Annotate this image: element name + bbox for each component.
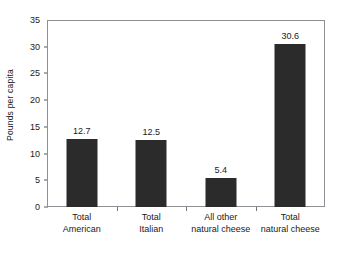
y-axis-tick-label: 10 <box>30 149 40 158</box>
x-axis-category-label-line: Total <box>142 212 161 222</box>
bar-group[interactable]: 12.7 <box>47 20 117 207</box>
x-axis-labels: TotalAmericanTotalItalianAll othernatura… <box>47 212 325 252</box>
bar-value-label: 12.5 <box>142 128 160 137</box>
bars-layer: 12.712.55.430.6 <box>47 20 325 207</box>
y-axis-title-text: Pounds per capita <box>5 69 15 141</box>
y-axis-tick-label: 25 <box>30 69 40 78</box>
bar-value-label: 5.4 <box>214 166 227 175</box>
x-axis-category-label-line: Total <box>281 212 300 222</box>
y-axis-tick-label: 15 <box>30 122 40 131</box>
y-axis-tick-label: 20 <box>30 96 40 105</box>
x-axis-category-label: TotalItalian <box>139 212 163 235</box>
bar-value-label: 12.7 <box>73 127 91 136</box>
x-axis-tick-mark <box>186 207 187 211</box>
bar-group[interactable]: 12.5 <box>117 20 187 207</box>
y-axis-tick-label: 0 <box>35 203 40 212</box>
bar-group[interactable]: 30.6 <box>256 20 326 207</box>
bar-group[interactable]: 5.4 <box>186 20 256 207</box>
x-axis-category-label-line: natural cheese <box>191 224 250 236</box>
bar[interactable] <box>275 44 306 207</box>
y-axis-title: Pounds per capita <box>0 0 20 210</box>
y-axis-tick-label: 5 <box>35 176 40 185</box>
bar-chart-figure: Pounds per capita 05101520253035 12.712.… <box>0 0 340 257</box>
x-axis-tick-mark <box>256 207 257 211</box>
x-axis-category-label-line: American <box>63 224 101 236</box>
y-axis-tick-label: 35 <box>30 16 40 25</box>
bar[interactable] <box>66 139 97 207</box>
x-axis-category-label-line: natural cheese <box>261 224 320 236</box>
x-axis-category-label-line: Total <box>72 212 91 222</box>
x-axis-tick-mark <box>117 207 118 211</box>
x-axis-category-label-line: All other <box>204 212 237 222</box>
x-axis-category-label-line: Italian <box>139 224 163 236</box>
bar-value-label: 30.6 <box>281 32 299 41</box>
y-axis-tick-labels: 05101520253035 <box>18 20 44 207</box>
x-axis-category-label: Totalnatural cheese <box>261 212 320 235</box>
y-axis-tick-label: 30 <box>30 42 40 51</box>
bar[interactable] <box>136 140 167 207</box>
x-axis-category-label: All othernatural cheese <box>191 212 250 235</box>
bar[interactable] <box>205 178 236 207</box>
x-axis-category-label: TotalAmerican <box>63 212 101 235</box>
